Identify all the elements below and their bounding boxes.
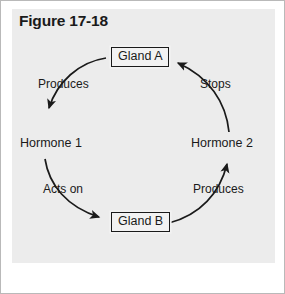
node-hormone-2: Hormone 2 [191, 136, 253, 150]
figure-frame: Figure 17-18 Gland A Hormone 1 Gland B H… [0, 0, 285, 294]
edge-label-acts-on: Acts on [43, 182, 83, 196]
edge-label-stops: Stops [200, 77, 231, 91]
edge-stops-arrow [178, 63, 229, 132]
edge-label-produces-1: Produces [38, 77, 89, 91]
node-gland-a: Gland A [111, 47, 169, 67]
node-gland-b: Gland B [111, 212, 170, 232]
node-hormone-1: Hormone 1 [20, 136, 82, 150]
edge-label-produces-2: Produces [193, 182, 244, 196]
